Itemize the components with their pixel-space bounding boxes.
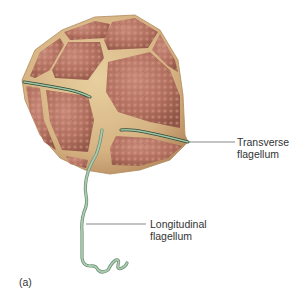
transverse-label-line1: Transverse xyxy=(237,136,289,148)
transverse-label-line2: flagellum xyxy=(237,148,289,160)
longitudinal-flagellum-label: Longitudinal flagellum xyxy=(150,218,207,242)
longitudinal-label-line2: flagellum xyxy=(150,230,207,242)
longitudinal-label-line1: Longitudinal xyxy=(150,218,207,230)
panel-label: (a) xyxy=(19,276,32,288)
transverse-flagellum-label: Transverse flagellum xyxy=(237,136,289,160)
